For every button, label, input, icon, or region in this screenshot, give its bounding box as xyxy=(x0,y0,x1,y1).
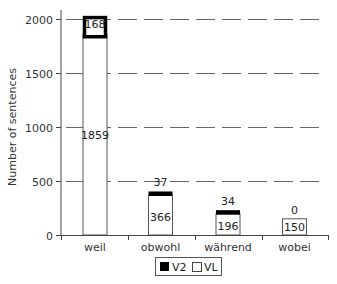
bar-segment-v2 xyxy=(149,191,173,196)
y-axis-label: Number of sentences xyxy=(6,68,19,186)
legend-swatch-vl xyxy=(193,263,202,272)
legend-swatch-v2 xyxy=(160,262,169,271)
value-label-vl: 196 xyxy=(218,220,239,233)
y-tick-label: 1000 xyxy=(25,122,53,135)
category-label-obwohl: obwohl xyxy=(141,241,180,254)
bar-segment-v2 xyxy=(216,210,240,215)
category-label-während: während xyxy=(204,241,252,254)
y-tick-label: 1500 xyxy=(25,68,53,81)
value-label-v2: 168 xyxy=(85,18,106,31)
stacked-bar-chart: Number of sentences 0500100015002000 168… xyxy=(0,0,337,284)
bar-obwohl: 37366 xyxy=(149,176,173,235)
value-label-vl: 366 xyxy=(150,211,171,224)
value-label-vl: 1859 xyxy=(81,129,109,142)
value-label-v2: 34 xyxy=(221,195,235,208)
value-label-v2: 0 xyxy=(291,204,298,217)
category-label-wobei: wobei xyxy=(278,241,311,254)
y-tick-label: 2000 xyxy=(25,14,53,27)
y-axis-ticks: 0500100015002000 xyxy=(25,14,61,243)
category-label-weil: weil xyxy=(84,241,106,254)
y-tick-label: 0 xyxy=(46,230,53,243)
y-tick-label: 500 xyxy=(32,176,53,189)
bar-weil: 1681859 xyxy=(81,18,109,235)
value-label-vl: 150 xyxy=(284,221,305,234)
bar-wobei: 0150 xyxy=(283,204,307,235)
legend: V2 VL xyxy=(156,258,222,276)
value-label-v2: 37 xyxy=(154,176,168,189)
legend-label-v2: V2 xyxy=(172,261,187,274)
category-labels: weilobwohlwährendwobei xyxy=(84,241,311,254)
bar-während: 34196 xyxy=(216,195,240,235)
bars: 168185937366341960150 xyxy=(81,18,307,235)
legend-label-vl: VL xyxy=(204,261,219,274)
